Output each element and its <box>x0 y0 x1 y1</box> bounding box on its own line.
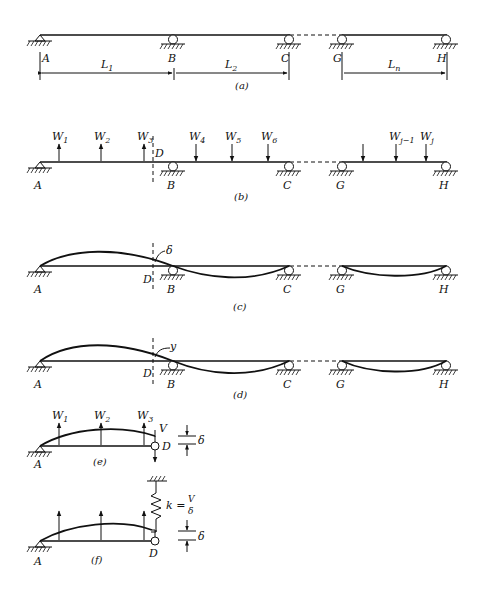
label-B: B <box>166 179 175 192</box>
symbol-delta: δ <box>166 244 173 257</box>
beam-diagram: A B C G H L1 L2 Ln (a) D <box>0 0 481 591</box>
label-A: A <box>33 378 42 391</box>
spring-k-eq: k = <box>166 499 185 512</box>
panel-f: k = V δ D δ A (f) <box>27 476 205 568</box>
label-H: H <box>436 52 447 65</box>
load-label-W2: W2 <box>94 130 110 145</box>
caption-b: (b) <box>234 191 248 202</box>
label-A: A <box>41 52 50 65</box>
label-G: G <box>333 52 342 65</box>
support-C <box>276 35 301 49</box>
spring-icon <box>147 476 167 532</box>
label-D: D <box>142 367 152 380</box>
label-D: D <box>142 273 152 286</box>
load-label-Wj-1: Wj−1 <box>389 130 415 145</box>
support-G <box>329 35 354 49</box>
support-H <box>433 35 458 49</box>
load-label-W1: W1 <box>52 130 68 145</box>
label-H: H <box>438 179 449 192</box>
span-L2: L2 <box>224 58 237 73</box>
label-C: C <box>283 283 292 296</box>
load-label-W1: W1 <box>52 409 68 424</box>
label-H: H <box>438 378 449 391</box>
caption-f: (f) <box>91 554 103 565</box>
load-label-W5: W5 <box>225 130 241 145</box>
symbol-y: y <box>169 340 177 353</box>
caption-d: (d) <box>233 389 247 400</box>
load-label-W3: W3 <box>137 409 153 424</box>
caption-c: (c) <box>233 301 247 312</box>
spring-k-denominator: δ <box>188 506 193 516</box>
load-label-W4: W4 <box>189 130 205 145</box>
deflected-shape <box>40 252 289 278</box>
label-B: B <box>166 378 175 391</box>
label-B: B <box>167 52 176 65</box>
label-D: D <box>161 440 171 453</box>
label-A: A <box>33 179 42 192</box>
panel-d: y D A B C G H (d) <box>27 338 458 400</box>
panel-a: A B C G H L1 L2 Ln (a) <box>27 35 458 91</box>
label-D: D <box>148 547 158 560</box>
load-label-W2: W2 <box>94 409 110 424</box>
caption-e: (e) <box>93 456 107 467</box>
panel-b: D W1 W2 W3 W4 W5 W6 Wj−1 Wj A B C G H (b… <box>27 130 458 202</box>
label-A: A <box>33 555 42 568</box>
label-G: G <box>336 378 345 391</box>
label-A: A <box>33 458 42 471</box>
label-A: A <box>33 283 42 296</box>
load-label-Wj: Wj <box>420 130 434 145</box>
span-Ln: Ln <box>387 58 400 73</box>
span-L1: L1 <box>100 58 113 73</box>
symbol-delta: δ <box>198 434 205 447</box>
label-G: G <box>336 283 345 296</box>
label-C: C <box>283 179 292 192</box>
load-label-W3: W3 <box>137 130 153 145</box>
panel-e: W1 W2 W3 V D δ A (e) <box>27 409 205 471</box>
support-B <box>160 35 185 49</box>
label-C: C <box>283 378 292 391</box>
label-B: B <box>166 283 175 296</box>
spring-k-numerator: V <box>188 494 196 504</box>
load-label-W6: W6 <box>261 130 277 145</box>
symbol-V: V <box>159 422 168 435</box>
label-G: G <box>336 179 345 192</box>
panel-c: δ D A B C G H (c) <box>27 243 458 312</box>
symbol-delta: δ <box>198 530 205 543</box>
support-A <box>27 35 52 46</box>
label-H: H <box>438 283 449 296</box>
caption-a: (a) <box>235 80 249 91</box>
label-D: D <box>154 147 164 160</box>
